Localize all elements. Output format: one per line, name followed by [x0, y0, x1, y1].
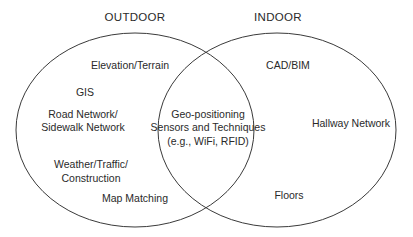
outdoor-item-weather-line2: Construction: [62, 172, 121, 185]
intersection-geo-line3: (e.g., WiFi, RFID): [167, 135, 249, 148]
indoor-item-floors: Floors: [274, 189, 303, 202]
indoor-title: INDOOR: [254, 11, 302, 24]
indoor-item-cad-bim: CAD/BIM: [266, 59, 310, 72]
intersection-geo-line1: Geo-positioning: [171, 108, 245, 121]
outdoor-title: OUTDOOR: [105, 11, 166, 24]
outdoor-item-weather-line1: Weather/Traffic/: [54, 158, 128, 171]
outdoor-item-map-matching: Map Matching: [102, 192, 168, 205]
indoor-item-hallway-network: Hallway Network: [312, 117, 390, 130]
outdoor-item-elevation: Elevation/Terrain: [91, 59, 169, 72]
outdoor-item-road-network-line1: Road Network/: [48, 108, 117, 121]
outdoor-item-road-network-line2: Sidewalk Network: [41, 121, 124, 134]
intersection-geo-line2: Sensors and Techniques: [151, 121, 266, 134]
outdoor-item-gis: GIS: [76, 86, 94, 99]
